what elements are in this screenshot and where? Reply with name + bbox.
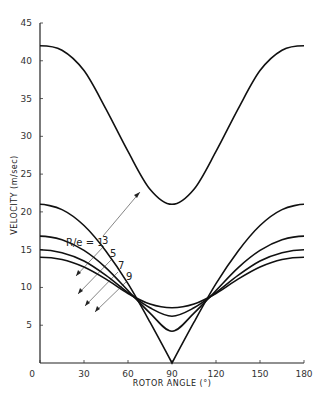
- x-tick-label: 180: [295, 369, 312, 379]
- y-tick-label: 5: [26, 320, 32, 330]
- y-tick-label: 40: [21, 56, 33, 66]
- x-tick-label: 60: [122, 369, 134, 379]
- series-line-3: [40, 236, 304, 331]
- x-tick-label: 150: [251, 369, 268, 379]
- series-line-2: [40, 204, 304, 363]
- x-tick-label: 30: [78, 369, 90, 379]
- leader-re5: [78, 260, 111, 294]
- label-re3: 3: [102, 235, 108, 246]
- arrowhead-icon: [85, 300, 90, 306]
- leader-re1: [103, 192, 140, 236]
- label-re9: 9: [126, 271, 132, 282]
- arrowhead-icon: [134, 192, 140, 198]
- arrowhead-icon: [78, 288, 83, 294]
- y-tick-label: 25: [21, 169, 32, 179]
- series-lines: [40, 46, 304, 363]
- x-tick-label: 120: [207, 369, 224, 379]
- series-line-5: [40, 257, 304, 308]
- y-tick-label: 45: [21, 18, 32, 28]
- arrowhead-icon: [76, 270, 81, 276]
- label-re5: 5: [110, 248, 116, 259]
- label-re1: R/e = 1: [66, 237, 104, 248]
- leader-re9: [95, 282, 126, 312]
- y-tick-label: 15: [21, 245, 32, 255]
- y-tick-label: 20: [21, 207, 33, 217]
- x-axis-title: ROTOR ANGLE (°): [133, 379, 212, 388]
- label-re7: 7: [118, 260, 124, 271]
- y-tick-label: 35: [21, 94, 32, 104]
- arrowhead-icon: [95, 306, 100, 312]
- velocity-chart: 51015202530354045 0306090120150180 VELOC…: [0, 0, 325, 400]
- y-tick-label: 30: [21, 131, 33, 141]
- y-tick-label: 10: [21, 282, 33, 292]
- x-tick-label: 0: [29, 369, 35, 379]
- x-tick-label: 90: [166, 369, 178, 379]
- series-line-4: [40, 250, 304, 317]
- y-axis-title: VELOCITY (m/sec): [10, 155, 19, 234]
- series-line-1: [40, 46, 304, 205]
